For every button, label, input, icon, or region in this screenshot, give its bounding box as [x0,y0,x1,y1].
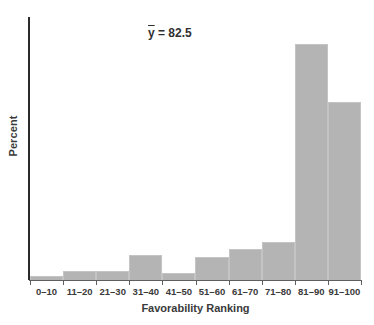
bar-cell [328,17,361,280]
x-tick-label: 0–10 [30,286,63,297]
x-tick-label: 91–100 [328,286,361,297]
x-tick [63,280,64,285]
x-axis-tick-labels: 0–1011–2021–3031–4041–5051–6061–7071–808… [30,286,361,297]
x-tick-label: 41–50 [162,286,195,297]
bar-cell [195,17,228,280]
x-tick-label: 31–40 [129,286,162,297]
x-axis-title: Favorability Ranking [30,302,361,314]
histogram-figure: Percent 0–1011–2021–3031–4041–5051–6061–… [0,0,374,325]
x-tick [229,280,230,285]
mean-symbol: y [148,26,155,40]
x-tick [162,280,163,285]
bar [195,257,228,280]
x-tick [30,280,31,285]
x-tick [96,280,97,285]
x-axis-ticks [30,280,361,285]
x-tick-label: 71–80 [262,286,295,297]
bar [229,249,262,280]
bar [262,242,295,280]
x-tick [262,280,263,285]
mean-annotation: y = 82.5 [148,26,192,40]
bar [328,102,361,280]
bar [129,255,162,280]
x-tick [295,280,296,285]
bar-cell [262,17,295,280]
x-tick-label: 81–90 [295,286,328,297]
bar-cell [295,17,328,280]
x-tick-label: 21–30 [96,286,129,297]
bar-series [30,17,361,280]
bar [96,271,129,280]
bar [63,271,96,280]
x-tick-label: 11–20 [63,286,96,297]
mean-value: = 82.5 [158,26,192,40]
plot-area [30,17,361,280]
x-tick [361,280,362,285]
x-tick-label: 61–70 [229,286,262,297]
bar-cell [229,17,262,280]
bar-cell [63,17,96,280]
bar-cell [129,17,162,280]
x-tick [328,280,329,285]
y-axis-title: Percent [7,101,19,171]
bar [162,273,195,280]
x-tick [129,280,130,285]
x-tick [196,280,197,285]
x-tick-label: 51–60 [195,286,228,297]
bar-cell [162,17,195,280]
bar [295,44,328,280]
bar-cell [96,17,129,280]
bar-cell [30,17,63,280]
